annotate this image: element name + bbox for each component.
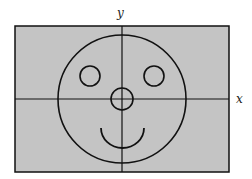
- smiley-diagram: [0, 0, 252, 179]
- x-axis-label: x: [236, 92, 243, 106]
- y-axis-label: y: [117, 6, 124, 20]
